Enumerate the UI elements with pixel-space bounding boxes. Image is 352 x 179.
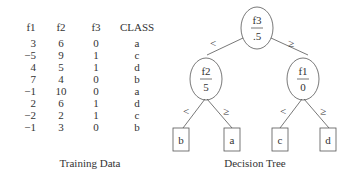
edge-label-geq: ≥ [281,37,301,49]
root-node-feature: f3 [242,14,272,26]
right-node-threshold: 0 [288,81,318,93]
root-node-threshold: .5 [242,30,272,42]
decision-tree-caption: Decision Tree [205,157,305,169]
leaf-c: c [265,134,295,146]
edge-label-less: < [203,37,223,49]
left-node-feature: f2 [191,65,221,77]
edge-label-geq: ≥ [216,105,236,117]
left-node-threshold: 5 [191,81,221,93]
leaf-d: d [313,134,343,146]
edge-label-geq: ≥ [313,105,333,117]
leaf-b: b [166,134,196,146]
edge-label-less: < [273,105,293,117]
leaf-a: a [217,134,247,146]
right-node-feature: f1 [288,65,318,77]
edge-label-less: < [176,105,196,117]
